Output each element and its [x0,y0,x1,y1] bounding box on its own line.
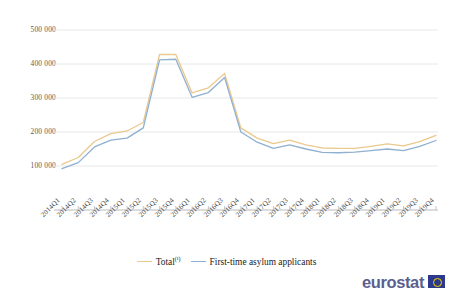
eurostat-wordmark: eurostat [362,274,424,291]
eurostat-logo: eurostat [362,274,445,291]
asylum-applicants-line-chart: 500 000 400 000 300 000 200 000 100 000 … [0,0,453,295]
legend-item-first-time[interactable]: First-time asylum applicants [191,257,317,267]
plot-area [0,0,453,295]
eu-flag-icon [428,275,445,288]
gridlines [54,30,438,166]
legend-swatch-total [137,261,152,262]
data-series [62,54,436,168]
legend-label-total: Total(¹) [156,256,181,267]
series-line-total [62,54,436,164]
legend-item-total[interactable]: Total(¹) [137,256,181,267]
series-line-first-time-asylum-applicants [62,59,436,168]
legend-label-first-time: First-time asylum applicants [210,257,317,267]
eu-stars-ring [433,278,442,287]
legend-footnote-marker: (¹) [175,256,181,262]
chart-legend: Total(¹) First-time asylum applicants [0,256,453,267]
x-axis [54,206,438,210]
legend-label-total-text: Total [156,257,175,267]
legend-swatch-first-time [191,261,206,262]
